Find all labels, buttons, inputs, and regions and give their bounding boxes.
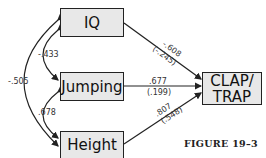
node-clap-label-line2: TRAP <box>213 89 251 105</box>
se-jumping-clap: (.199) <box>147 88 171 97</box>
node-jumping-label: Jumping <box>61 79 122 95</box>
node-iq-label: IQ <box>84 15 100 31</box>
node-height-label: Height <box>67 137 117 153</box>
node-clap-label-line1: CLAP/ <box>210 73 254 89</box>
figure-caption: FIGURE 19–3 <box>184 138 258 149</box>
corr-label-jumping-height: .678 <box>38 108 56 117</box>
node-height: Height <box>60 131 124 158</box>
correlation-arc-iq-height <box>24 20 58 146</box>
corr-label-iq-jumping: -.433 <box>38 50 59 59</box>
node-iq: IQ <box>60 8 124 37</box>
coef-jumping-clap: .677 <box>149 77 167 86</box>
node-clap-trap: CLAP/ TRAP <box>202 72 262 105</box>
node-jumping: Jumping <box>60 72 124 101</box>
corr-label-iq-height: -.505 <box>8 77 29 86</box>
